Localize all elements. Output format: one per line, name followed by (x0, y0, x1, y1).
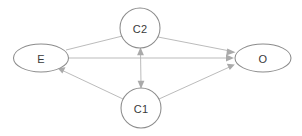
node-c1[interactable]: C1 (121, 88, 161, 128)
edge-c1-to-e (58, 67, 124, 99)
edge-c1-to-o (159, 64, 235, 99)
edge-c2-to-o-line (158, 37, 230, 51)
edge-c1-to-e-line (63, 71, 124, 100)
edge-c1-to-o-arrowhead (227, 64, 235, 70)
node-c1-label: C1 (134, 103, 148, 115)
causal-diagram: E C2 C1 O (0, 0, 302, 136)
node-layer: E C2 C1 O (14, 8, 292, 128)
edge-c2-to-o-arrowhead (226, 49, 235, 56)
node-c2[interactable]: C2 (120, 8, 160, 48)
edge-c1-c2 (137, 47, 144, 89)
edge-e-to-o (69, 55, 235, 62)
node-c2-label: C2 (133, 23, 147, 35)
diagram-canvas: E C2 C1 O (0, 0, 302, 136)
node-e[interactable]: E (14, 44, 69, 72)
edge-c1-c2-line (141, 52, 142, 84)
edge-e-to-o-arrowhead (226, 55, 234, 62)
node-e-label: E (37, 53, 45, 65)
edge-e-to-c2 (66, 36, 123, 50)
edge-c2-to-o (158, 37, 236, 55)
node-o-label: O (259, 53, 268, 65)
edge-c1-to-o-line (159, 67, 230, 99)
edge-e-to-c2-line (66, 36, 123, 50)
node-o[interactable]: O (235, 44, 291, 72)
